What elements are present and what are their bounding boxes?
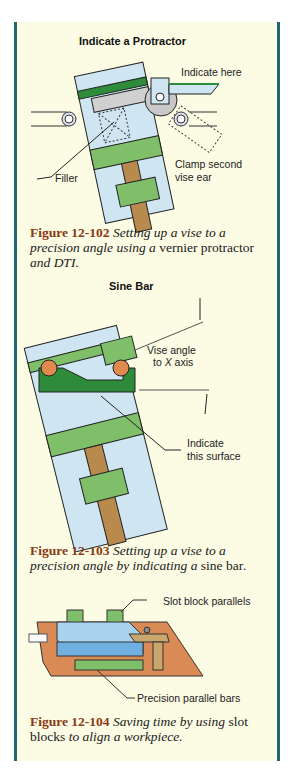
label-vise-angle-line2: to X axis — [153, 356, 193, 368]
label-indicate-line2: this surface — [187, 450, 241, 462]
sidebar-panel: Indicate a Protractor — [14, 22, 280, 761]
sine-bar-diagram — [17, 292, 283, 552]
label-filler: Filler — [55, 172, 78, 184]
label-precision-parallel-bars: Precision parallel bars — [137, 692, 240, 704]
label-clamp-line2: vise ear — [175, 171, 212, 183]
caption-number: Figure 12-104 — [30, 714, 110, 729]
label-indicate-line1: Indicate — [187, 437, 224, 449]
label-indicate-here: Indicate here — [181, 66, 242, 78]
caption-number: Figure 12-102 — [30, 225, 110, 240]
label-vise-angle-line1: Vise angle — [147, 344, 196, 356]
protractor-diagram — [17, 22, 283, 242]
caption-figure-12-104: Figure 12-104 Saving time by using slot … — [30, 714, 270, 744]
label-slot-block-parallels: Slot block parallels — [163, 595, 251, 607]
label-clamp-line1: Clamp second — [175, 158, 242, 170]
figure-title-sine-bar: Sine Bar — [109, 280, 154, 292]
caption-number: Figure 12-103 — [30, 543, 110, 558]
caption-figure-12-102: Figure 12-102 Setting up a vise to a pre… — [30, 225, 270, 270]
caption-figure-12-103: Figure 12-103 Setting up a vise to a pre… — [30, 543, 270, 573]
